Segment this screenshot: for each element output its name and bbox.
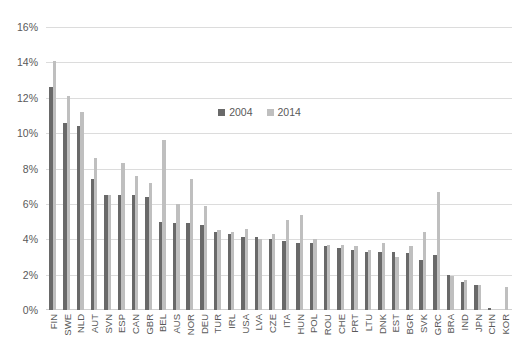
bar-2014	[190, 179, 193, 310]
x-axis-tick: BGR	[402, 312, 416, 349]
y-axis-tick-label: 2%	[0, 269, 38, 281]
bar-group	[183, 27, 197, 310]
x-axis-tick-label: BGR	[404, 314, 415, 335]
x-axis-tick: NLD	[73, 312, 87, 349]
x-axis-tick-label: CHN	[486, 314, 497, 335]
bar-2014	[135, 176, 138, 310]
x-axis-tick: PRT	[347, 312, 361, 349]
bar-2014	[149, 183, 152, 310]
bar-2014	[176, 204, 179, 310]
x-axis-tick: ITA	[279, 312, 293, 349]
bar-group	[101, 27, 115, 310]
bar-2014	[395, 257, 398, 310]
x-axis-tick: HUN	[293, 312, 307, 349]
x-axis-tick-label: AUT	[88, 314, 99, 333]
bar-group	[279, 27, 293, 310]
bar-group	[46, 27, 60, 310]
x-axis-tick: AUT	[87, 312, 101, 349]
x-axis-tick: IND	[457, 312, 471, 349]
x-axis-tick: TUR	[210, 312, 224, 349]
x-axis-tick-label: TUR	[212, 314, 223, 334]
bar-2014	[327, 245, 330, 310]
bar-2014	[67, 96, 70, 310]
bar-2014	[121, 163, 124, 310]
x-axis-tick-label: SWE	[61, 314, 72, 336]
y-axis-tick-label: 0%	[0, 304, 38, 316]
bar-series-container	[46, 27, 512, 310]
x-axis-tick: POL	[306, 312, 320, 349]
bar-2014	[94, 158, 97, 310]
bar-group	[252, 27, 266, 310]
bar-2014	[341, 245, 344, 310]
x-axis-tick: IRL	[224, 312, 238, 349]
bar-2014	[354, 246, 357, 310]
bar-2014	[258, 239, 261, 310]
x-axis-tick-label: NOR	[184, 314, 195, 335]
x-axis-tick-label: IND	[458, 314, 469, 330]
x-axis-tick: NOR	[183, 312, 197, 349]
x-axis-tick-label: CHE	[335, 314, 346, 334]
x-axis-tick-label: DEU	[198, 314, 209, 334]
bar-group	[389, 27, 403, 310]
x-axis-tick: AUS	[169, 312, 183, 349]
bar-chart: 16%14%12%10%8%6%4%2%0% FINSWENLDAUTSVNES…	[0, 0, 519, 349]
x-axis-tick: CHE	[334, 312, 348, 349]
bar-group	[128, 27, 142, 310]
bar-2014	[464, 280, 467, 310]
bar-group	[375, 27, 389, 310]
bar-group	[334, 27, 348, 310]
bar-2014	[108, 195, 111, 310]
bar-group	[115, 27, 129, 310]
bar-group	[142, 27, 156, 310]
bar-group	[430, 27, 444, 310]
bar-group	[471, 27, 485, 310]
bar-group	[402, 27, 416, 310]
x-axis-tick-label: BEL	[157, 314, 168, 332]
x-axis-tick-label: CZE	[267, 314, 278, 333]
bar-2014	[245, 229, 248, 310]
x-axis-tick: DNK	[375, 312, 389, 349]
bar-2014	[231, 232, 234, 310]
x-axis-tick: ESP	[115, 312, 129, 349]
bar-2014	[80, 112, 83, 310]
x-axis-tick-label: EST	[390, 314, 401, 332]
x-axis-tick: BEL	[156, 312, 170, 349]
bar-2014	[204, 206, 207, 310]
bar-2014	[505, 287, 508, 310]
x-axis-tick-label: KOR	[500, 314, 511, 335]
bar-2014	[423, 232, 426, 310]
bar-2014	[300, 215, 303, 311]
bar-group	[224, 27, 238, 310]
x-axis-tick: GRC	[430, 312, 444, 349]
bar-2014	[313, 239, 316, 310]
y-axis-tick-label: 4%	[0, 233, 38, 245]
x-axis-tick-label: LVA	[253, 314, 264, 331]
x-axis-tick-label: BRA	[445, 314, 456, 334]
x-axis-tick: KOR	[498, 312, 512, 349]
x-axis-tick-label: GBR	[143, 314, 154, 335]
bar-group	[347, 27, 361, 310]
plot-area	[46, 27, 512, 310]
x-axis-tick-label: FIN	[47, 314, 58, 329]
x-axis-tick-label: DNK	[376, 314, 387, 334]
x-axis-tick-label: ESP	[116, 314, 127, 333]
bar-group	[265, 27, 279, 310]
x-axis-tick-label: PRT	[349, 314, 360, 333]
bar-group	[293, 27, 307, 310]
x-axis-tick-label: JPN	[472, 314, 483, 332]
x-axis-tick-label: AUS	[171, 314, 182, 334]
bar-2014	[53, 61, 56, 310]
bar-group	[443, 27, 457, 310]
x-axis-tick-label: HUN	[294, 314, 305, 335]
y-axis-tick-label: 16%	[0, 21, 38, 33]
x-axis-tick: SVN	[101, 312, 115, 349]
x-axis-tick-label: ITA	[280, 314, 291, 328]
x-axis-tick: DEU	[197, 312, 211, 349]
x-axis-tick: CZE	[265, 312, 279, 349]
bar-group	[197, 27, 211, 310]
x-axis: FINSWENLDAUTSVNESPCANGBRBELAUSNORDEUTURI…	[46, 312, 512, 349]
x-axis-tick: LVA	[252, 312, 266, 349]
bar-2014	[217, 230, 220, 310]
bar-2014	[272, 234, 275, 310]
bar-group	[60, 27, 74, 310]
